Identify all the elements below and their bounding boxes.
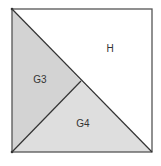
- dissection-diagram: H G3 G4: [0, 0, 161, 166]
- label-G4: G4: [76, 118, 90, 129]
- corner-dot-bottom-left: [11, 151, 14, 154]
- corner-dot-top-left: [11, 8, 14, 11]
- label-H: H: [106, 43, 113, 54]
- label-G3: G3: [33, 74, 47, 85]
